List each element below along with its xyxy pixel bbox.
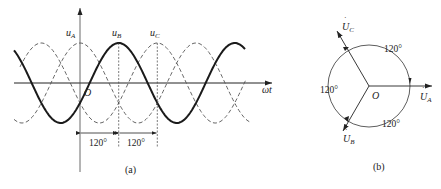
waveform-diagram: uA uB uC O ωt 120° 120° (a) bbox=[14, 8, 272, 176]
label-phasor-u-a: UA bbox=[420, 91, 432, 104]
x-axis-label: ωt bbox=[262, 84, 272, 95]
dot-u-a: · bbox=[422, 83, 425, 92]
angle-label-left: 120° bbox=[320, 85, 338, 95]
label-u-a: uA bbox=[66, 27, 76, 40]
angle-label-bottom: 120° bbox=[382, 119, 400, 129]
dimension-label-1: 120° bbox=[89, 138, 107, 148]
caption-b: (b) bbox=[373, 161, 385, 173]
dot-u-b: · bbox=[345, 125, 348, 134]
label-phasor-u-c: UC bbox=[342, 21, 354, 34]
origin-label-a: O bbox=[84, 87, 91, 98]
angle-label-top: 120° bbox=[384, 44, 402, 54]
dot-u-c: · bbox=[344, 13, 347, 22]
dimension-label-2: 120° bbox=[127, 138, 145, 148]
caption-a: (a) bbox=[125, 164, 136, 176]
label-u-b: uB bbox=[112, 27, 122, 40]
phasor-diagram: UC · UA · UB · O 120° 120° 120° (b) bbox=[320, 13, 432, 173]
three-phase-figure: uA uB uC O ωt 120° 120° (a) UC · UA · UB… bbox=[0, 0, 441, 189]
label-u-c: uC bbox=[150, 27, 160, 40]
origin-label-b: O bbox=[372, 90, 379, 101]
phasor-u-c bbox=[337, 31, 369, 86]
label-phasor-u-b: UB bbox=[343, 133, 355, 146]
arc-arrow-1 bbox=[409, 78, 412, 84]
